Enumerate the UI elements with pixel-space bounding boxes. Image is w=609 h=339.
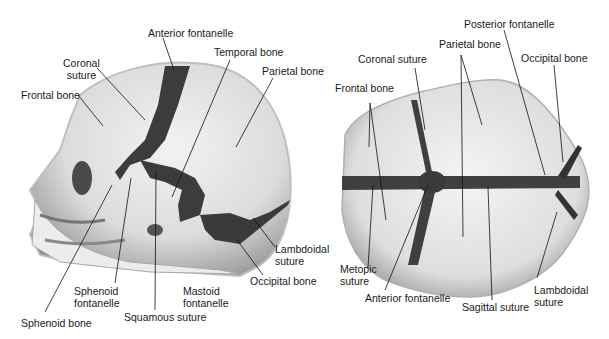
label-metopic-suture: Metopic suture <box>340 263 377 287</box>
label-sagittal-suture: Sagittal suture <box>462 301 529 313</box>
label-posterior-fontanelle: Posterior fontanelle <box>464 18 554 30</box>
label-parietal-bone-superior: Parietal bone <box>439 38 501 50</box>
label-frontal-bone-lateral: Frontal bone <box>21 89 80 101</box>
superior-skull <box>342 80 589 297</box>
label-lambdoidal-suture-lateral: Lambdoidal suture <box>275 243 329 267</box>
label-anterior-fontanelle-lateral: Anterior fontanelle <box>148 27 233 39</box>
label-occipital-bone-superior: Occipital bone <box>521 52 588 64</box>
label-temporal-bone: Temporal bone <box>214 46 283 58</box>
label-occipital-bone-lateral: Occipital bone <box>250 275 317 287</box>
label-squamous-suture: Squamous suture <box>124 311 206 323</box>
label-lambdoidal-suture-superior: Lambdoidal suture <box>534 284 588 308</box>
label-sphenoid-bone: Sphenoid bone <box>21 317 92 329</box>
label-coronal-suture-lateral: Coronal suture <box>63 57 100 81</box>
label-coronal-suture-superior: Coronal suture <box>358 53 427 65</box>
label-mastoid-fontanelle: Mastoid fontanelle <box>183 285 229 309</box>
label-parietal-bone-lateral: Parietal bone <box>262 65 324 77</box>
label-frontal-bone-superior: Frontal bone <box>335 82 394 94</box>
label-sphenoid-fontanelle: Sphenoid fontanelle <box>74 285 120 309</box>
label-anterior-fontanelle-superior: Anterior fontanelle <box>365 292 450 304</box>
